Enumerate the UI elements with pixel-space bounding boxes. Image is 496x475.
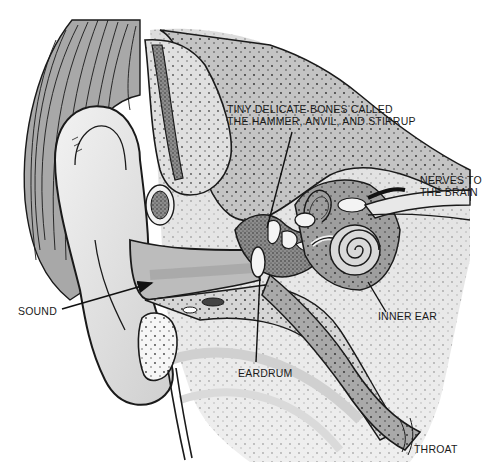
throat-label: THROAT	[414, 443, 458, 455]
cochlea	[330, 225, 380, 275]
ear-anatomy-diagram: TINY DELICATE BONES CALLED THE HAMMER, A…	[0, 0, 496, 475]
eardrum	[251, 247, 265, 277]
anvil-bone	[282, 231, 297, 249]
nerves-label-line2: THE BRAIN	[420, 186, 482, 198]
nerves-label: NERVES TO THE BRAIN	[420, 174, 482, 198]
throat-label-text: THROAT	[414, 443, 458, 455]
eardrum-label-text: EARDRUM	[238, 367, 293, 379]
ear-illustration	[0, 0, 496, 475]
bones-label: TINY DELICATE BONES CALLED THE HAMMER, A…	[227, 103, 416, 127]
eardrum-label: EARDRUM	[238, 367, 293, 379]
sound-label-text: SOUND	[18, 305, 57, 317]
bones-label-line1: TINY DELICATE BONES CALLED	[227, 103, 416, 115]
inner-ear-label: INNER EAR	[378, 310, 437, 322]
inner-ear-label-text: INNER EAR	[378, 310, 437, 322]
nerves-label-line1: NERVES TO	[420, 174, 482, 186]
bones-label-line2: THE HAMMER, ANVIL, AND STIRRUP	[227, 115, 416, 127]
sound-label: SOUND	[18, 305, 57, 317]
